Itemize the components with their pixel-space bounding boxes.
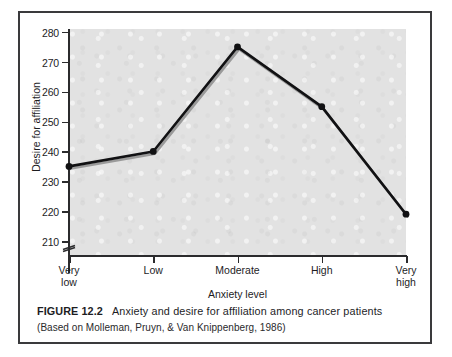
data-point-0 (66, 163, 73, 170)
data-point-1 (150, 148, 157, 155)
series-line-shadow (71, 49, 408, 216)
figure-frame: 210220230240250260270280 VerylowLowModer… (18, 11, 432, 344)
figure-caption: FIGURE 12.2 Anxiety and desire for affil… (37, 304, 415, 334)
caption-description: Anxiety and desire for affiliation among… (112, 305, 382, 317)
data-point-4 (403, 211, 410, 218)
series-line (69, 47, 406, 214)
caption-figure-label: FIGURE 12.2 (37, 305, 103, 317)
caption-source: (Based on Molleman, Pruyn, & Van Knippen… (37, 321, 415, 334)
caption-main-line: FIGURE 12.2 Anxiety and desire for affil… (37, 304, 415, 318)
data-point-2 (234, 44, 241, 51)
chart-region: 210220230240250260270280 VerylowLowModer… (20, 13, 430, 295)
data-point-3 (318, 103, 325, 110)
data-series-plot (20, 13, 430, 295)
